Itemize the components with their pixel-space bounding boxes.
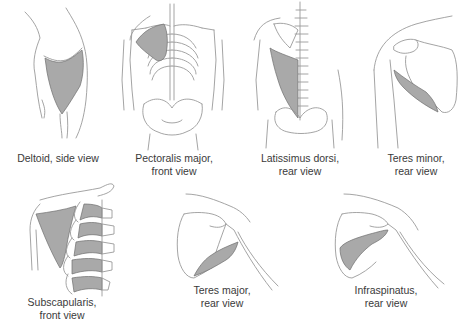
panel-infraspinatus: Infraspinatus, rear view (310, 170, 473, 324)
panel-subscapularis: Subscapularis, front view (0, 170, 160, 324)
caption-teres-major: Teres major, rear view (193, 284, 250, 310)
caption-subscapularis-line1: Subscapularis, (28, 296, 97, 309)
teres-minor-illustration (360, 0, 473, 170)
caption-infraspinatus-line1: Infraspinatus, (354, 284, 417, 297)
panel-deltoid: Deltoid, side view (0, 0, 120, 170)
caption-subscapularis: Subscapularis, front view (28, 296, 97, 322)
pectoralis-major-muscle (136, 24, 167, 61)
panel-pectoralis-major: Pectoralis major, front view (110, 0, 240, 170)
caption-subscapularis-line2: front view (28, 309, 97, 322)
latissimus-dorsi-illustration (240, 0, 360, 170)
infraspinatus-muscle (340, 230, 388, 270)
caption-teres-major-line2: rear view (193, 297, 250, 310)
ribs (72, 204, 102, 292)
panel-teres-minor: Teres minor, rear view (360, 0, 473, 170)
caption-deltoid: Deltoid, side view (17, 152, 99, 165)
caption-latissimus-dorsi-line1: Latissimus dorsi, (261, 152, 339, 165)
caption-infraspinatus: Infraspinatus, rear view (354, 284, 417, 310)
caption-teres-major-line1: Teres major, (193, 284, 250, 297)
caption-pectoralis-major-line1: Pectoralis major, (135, 152, 213, 165)
deltoid-illustration (0, 0, 120, 170)
subscapularis-muscle (36, 206, 76, 268)
panel-latissimus-dorsi: Latissimus dorsi, rear view (240, 0, 360, 170)
caption-infraspinatus-line2: rear view (354, 297, 417, 310)
teres-minor-muscle (394, 70, 438, 112)
caption-deltoid-line1: Deltoid, side view (17, 152, 99, 165)
pectoralis-major-illustration (110, 0, 240, 170)
teres-major-muscle (194, 242, 238, 276)
caption-teres-minor-line1: Teres minor, (387, 152, 444, 165)
panel-teres-major: Teres major, rear view (160, 170, 320, 324)
deltoid-muscle (45, 50, 83, 114)
